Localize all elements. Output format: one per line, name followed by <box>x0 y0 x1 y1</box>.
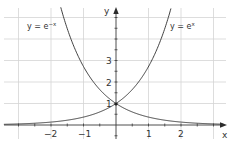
y-axis-arrow-icon <box>113 7 118 14</box>
curve-exp-neg-x <box>61 7 224 124</box>
y-tick-label: 3 <box>106 56 112 66</box>
x-axis-label: x <box>222 130 228 140</box>
y-tick-label: 2 <box>106 78 112 88</box>
x-tick-label: 1 <box>146 129 152 139</box>
x-axis-arrow-icon <box>220 122 227 127</box>
x-tick-label: −1 <box>78 129 91 139</box>
intersection-point <box>114 102 117 105</box>
x-tick-label: 2 <box>178 129 184 139</box>
exponential-functions-chart: x y −2 −1 1 2 1 2 3 y = e−x y = ex <box>0 0 231 142</box>
x-tick-label: −2 <box>44 129 57 139</box>
tick-labels: −2 −1 1 2 1 2 3 <box>44 56 184 139</box>
y-axis-label: y <box>104 6 110 16</box>
label-exp-neg-x: y = e−x <box>27 21 57 31</box>
label-exp-x: y = ex <box>170 21 195 31</box>
y-axis: y <box>104 6 119 139</box>
